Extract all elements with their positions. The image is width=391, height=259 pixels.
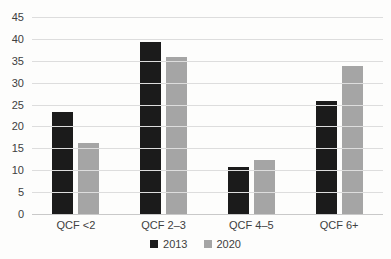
y-tick-label-15: 15 [0, 141, 24, 155]
y-tick-label-0: 0 [0, 207, 24, 221]
bar-2013 [316, 101, 337, 215]
x-category-label: QCF 4–5 [208, 219, 296, 231]
y-tick-label-30: 30 [0, 76, 24, 90]
gridline-45 [32, 17, 383, 18]
legend: 20132020 [0, 238, 391, 250]
y-tick-label-10: 10 [0, 163, 24, 177]
gridline-10 [32, 170, 383, 171]
y-axis: 051015202530354045 [0, 18, 26, 215]
bar-2020 [78, 143, 99, 215]
legend-swatch-2020 [204, 240, 212, 248]
legend-item-2013: 2013 [150, 238, 187, 250]
y-tick-label-25: 25 [0, 98, 24, 112]
legend-label: 2020 [217, 238, 241, 250]
gridline-30 [32, 83, 383, 84]
bar-2013 [228, 167, 249, 215]
bar-2013 [140, 42, 161, 215]
plot-area [32, 18, 383, 215]
y-tick-label-20: 20 [0, 119, 24, 133]
gridline-20 [32, 126, 383, 127]
y-tick-label-5: 5 [0, 185, 24, 199]
x-category-label: QCF 2–3 [120, 219, 208, 231]
legend-item-2020: 2020 [204, 238, 241, 250]
legend-swatch-2013 [150, 240, 158, 248]
bar-2013 [52, 112, 73, 215]
bar-group [295, 18, 383, 215]
legend-label: 2013 [163, 238, 187, 250]
y-tick-label-40: 40 [0, 32, 24, 46]
bar-groups [32, 18, 383, 215]
bar-group [120, 18, 208, 215]
bar-group [208, 18, 296, 215]
bar-group [32, 18, 120, 215]
gridline-35 [32, 61, 383, 62]
gridline-15 [32, 148, 383, 149]
x-axis-labels: QCF <2QCF 2–3QCF 4–5QCF 6+ [32, 219, 383, 231]
x-category-label: QCF 6+ [295, 219, 383, 231]
bar-2020 [254, 160, 275, 215]
gridline-0 [32, 214, 383, 215]
gridline-40 [32, 39, 383, 40]
y-tick-label-45: 45 [0, 10, 24, 24]
bar-chart: 051015202530354045 QCF <2QCF 2–3QCF 4–5Q… [0, 0, 391, 259]
y-tick-label-35: 35 [0, 54, 24, 68]
gridline-25 [32, 105, 383, 106]
gridline-5 [32, 192, 383, 193]
x-category-label: QCF <2 [32, 219, 120, 231]
